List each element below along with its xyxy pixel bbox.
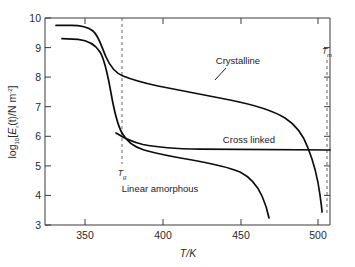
- y-tick-label: 3: [35, 219, 41, 231]
- y-tick-label: 10: [29, 12, 41, 24]
- y-axis-label: log10[Er(t)/N m-2]: [6, 85, 20, 158]
- y-tick-label: 8: [35, 71, 41, 83]
- ylabel-prefix: log: [6, 144, 18, 158]
- ylabel-e-arg: (t)/N m: [6, 94, 18, 126]
- tg-subscript: g: [123, 174, 127, 180]
- svg-text:Tm: Tm: [322, 46, 332, 58]
- x-axis-tick-labels: 350 400 450 500: [76, 229, 327, 241]
- y-tick-label: 5: [35, 160, 41, 172]
- y-axis-tick-labels: 10 9 8 7 6 5 4 3: [29, 12, 41, 231]
- x-tick-label: 500: [309, 229, 327, 241]
- y-tick-label: 4: [35, 189, 41, 201]
- y-tick-label: 7: [35, 101, 41, 113]
- ylabel-bracket-close: ]: [6, 85, 18, 88]
- tg-marker: Tg: [118, 18, 127, 180]
- relaxation-modulus-chart: 10 9 8 7 6 5 4 3 350 400 450 500 T/K log…: [0, 0, 355, 267]
- svg-text:Tg: Tg: [118, 168, 127, 180]
- x-tick-label: 350: [76, 229, 94, 241]
- tm-subscript: m: [327, 52, 332, 58]
- y-tick-label: 6: [35, 130, 41, 142]
- label-crystalline: Crystalline: [216, 55, 260, 66]
- label-linear-amorphous: Linear amorphous: [122, 183, 199, 194]
- x-tick-label: 450: [232, 229, 250, 241]
- y-tick-label: 9: [35, 42, 41, 54]
- x-axis-label: T/K: [180, 247, 197, 259]
- svg-text:log10[Er(t)/N m-2]: log10[Er(t)/N m-2]: [6, 85, 20, 158]
- tm-marker: Tm: [322, 46, 332, 215]
- label-cross-linked: Cross linked: [223, 134, 275, 145]
- crystalline-leader-line: [215, 68, 226, 80]
- x-tick-label: 400: [154, 229, 172, 241]
- x-axis-ticks: [85, 18, 318, 225]
